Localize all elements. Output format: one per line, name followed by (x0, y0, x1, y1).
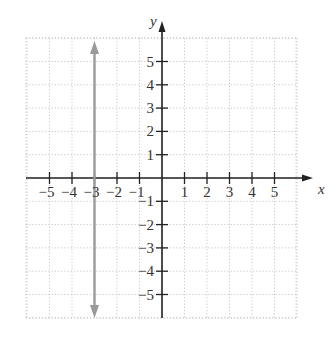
y-axis-label: y (148, 13, 157, 29)
x-tick-label: −3 (84, 184, 100, 200)
x-axis-label: x (317, 181, 325, 197)
y-tick-label: 5 (147, 54, 155, 70)
y-tick-label: −2 (138, 217, 154, 233)
y-tick-label: −5 (138, 287, 154, 303)
y-tick-label: 2 (147, 123, 155, 139)
x-tick-label: 2 (203, 184, 211, 200)
series-layer (90, 41, 99, 318)
axes (26, 21, 313, 318)
x-tick-label: 4 (248, 184, 256, 200)
y-tick-label: 1 (147, 147, 155, 163)
x-tick-label: −2 (106, 184, 122, 200)
x-tick-label: −5 (39, 184, 55, 200)
coordinate-plane: −5−4−3−2−11234554321−1−2−3−4−5 x y (0, 0, 336, 338)
x-tick-label: 3 (226, 184, 234, 200)
arrow-down-icon (90, 305, 99, 318)
x-tick-label: 5 (271, 184, 279, 200)
y-tick-label: −1 (138, 193, 154, 209)
x-axis-arrow-icon (302, 175, 313, 182)
y-axis-arrow-icon (159, 21, 166, 32)
y-tick-label: −4 (138, 263, 154, 279)
x-tick-label: 1 (181, 184, 189, 200)
y-tick-label: −3 (138, 240, 154, 256)
y-tick-label: 4 (147, 77, 155, 93)
arrow-up-icon (90, 41, 99, 54)
x-tick-label: −4 (61, 184, 77, 200)
y-tick-label: 3 (147, 100, 155, 116)
